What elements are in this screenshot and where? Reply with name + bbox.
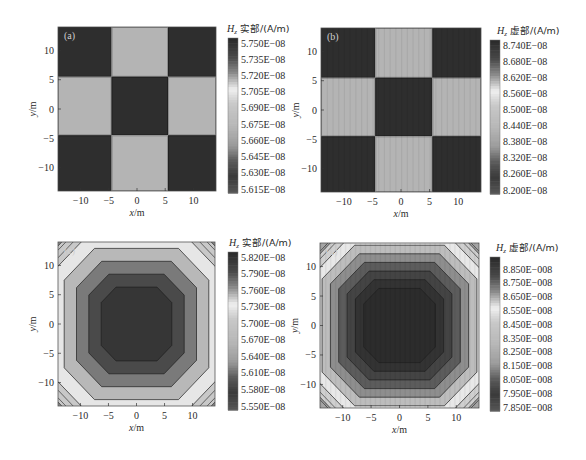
colorbar: 5.750E−085.735E−085.720E−085.705E−085.69… xyxy=(226,23,290,195)
heatmap-cell xyxy=(168,77,216,136)
colorbar-tick-label: 8.850E−008 xyxy=(503,264,552,275)
colorbar-tick-label: 8.050E−008 xyxy=(503,374,552,385)
colorbar-tick-label: 8.260E−08 xyxy=(503,168,547,179)
heatmap-cell xyxy=(58,77,112,136)
colorbar-tick-label: 5.700E−08 xyxy=(241,318,285,329)
colorbar-tick-label: 7.850E−008 xyxy=(503,402,552,413)
colorbar: 8.740E−088.680E−088.620E−088.560E−088.50… xyxy=(490,25,560,196)
heatmap-cell xyxy=(168,27,216,77)
y-axis-label: y/m xyxy=(289,318,300,334)
colorbar-tick-label: 5.640E−08 xyxy=(241,351,285,362)
colorbar-tick-label: 5.660E−08 xyxy=(241,135,285,146)
colorbar-tick-label: 8.380E−08 xyxy=(503,136,547,147)
y-tick-label: 5 xyxy=(49,74,54,85)
colorbar-tick-label: 5.670E−08 xyxy=(241,334,285,345)
colorbar-tick-label: 5.615E−08 xyxy=(241,184,285,195)
x-tick-label: 0 xyxy=(397,412,402,423)
x-tick-label: −5 xyxy=(367,196,378,207)
y-tick-label: 0 xyxy=(311,320,316,331)
panel-b: (b)−10−505101050−5−10x/my/m8.740E−088.68… xyxy=(290,25,560,219)
colorbar-title: Hz 实部/(A/m) xyxy=(226,23,290,36)
colorbar-tick-label: 8.750E−008 xyxy=(503,277,552,288)
y-tick-label: −10 xyxy=(300,379,316,390)
colorbar-tick-label: 8.620E−08 xyxy=(503,72,547,83)
x-tick-label: 0 xyxy=(134,410,139,421)
figure: (a)−10−505101050−5−10x/my/m5.750E−085.73… xyxy=(0,0,586,460)
colorbar-tick-label: 5.705E−08 xyxy=(241,86,285,97)
colorbar-tick-label: 5.645E−08 xyxy=(241,151,285,162)
y-tick-label: 10 xyxy=(44,260,54,271)
x-axis-label: x/m xyxy=(128,422,144,433)
colorbar-tick-label: 5.690E−08 xyxy=(241,102,285,113)
y-tick-label: 0 xyxy=(312,105,317,116)
x-tick-label: 5 xyxy=(427,196,432,207)
panel-label: (d) xyxy=(326,246,338,258)
y-tick-label: 0 xyxy=(49,319,54,330)
colorbar-tick-label: 5.760E−08 xyxy=(241,285,285,296)
colorbar-tick-label: 8.680E−08 xyxy=(503,56,547,67)
colorbar-tick-label: 5.720E−08 xyxy=(241,70,285,81)
x-tick-label: −10 xyxy=(335,412,351,423)
x-tick-label: 10 xyxy=(188,410,198,421)
panel-d: (d)−10−505101050−5−10x/my/m8.850E−0088.7… xyxy=(289,211,559,441)
y-tick-label: −5 xyxy=(306,134,317,145)
heatmap-cell xyxy=(58,135,112,191)
heatmap-cell xyxy=(432,136,481,192)
y-tick-label: −5 xyxy=(305,349,316,360)
colorbar-tick-label: 5.820E−08 xyxy=(241,252,285,263)
colorbar-tick-label: 8.200E−08 xyxy=(503,185,547,196)
y-tick-label: 10 xyxy=(307,46,317,57)
colorbar: 5.820E−085.790E−085.760E−085.730E−085.70… xyxy=(228,237,292,412)
y-axis-label: y/m xyxy=(290,102,301,118)
x-tick-label: 0 xyxy=(399,196,404,207)
colorbar-tick-label: 5.790E−08 xyxy=(241,268,285,279)
colorbar-tick-label: 8.350E−008 xyxy=(503,333,552,344)
x-tick-label: 10 xyxy=(453,196,463,207)
colorbar-tick-label: 5.630E−08 xyxy=(241,167,285,178)
y-axis-label: y/m xyxy=(27,316,38,332)
colorbar-tick-label: 5.675E−08 xyxy=(241,119,285,130)
heatmap-cell xyxy=(112,27,168,77)
colorbar-tick-label: 5.735E−08 xyxy=(241,54,285,65)
colorbar-tick-label: 8.150E−008 xyxy=(503,360,552,371)
y-tick-label: −10 xyxy=(38,377,54,388)
x-tick-label: 5 xyxy=(425,412,430,423)
colorbar-tick-label: 8.440E−08 xyxy=(503,120,547,131)
colorbar-tick-label: 5.610E−08 xyxy=(241,367,285,378)
colorbar-tick-label: 5.730E−08 xyxy=(241,301,285,312)
x-tick-label: −5 xyxy=(103,195,114,206)
panel-label: (b) xyxy=(327,31,339,43)
colorbar-tick-label: 8.650E−008 xyxy=(503,291,552,302)
x-axis-label: x/m xyxy=(391,424,407,435)
y-tick-label: −5 xyxy=(43,348,54,359)
heatmap-area xyxy=(321,28,481,192)
panel-a: (a)−10−505101050−5−10x/my/m5.750E−085.73… xyxy=(27,23,290,218)
y-tick-label: 5 xyxy=(49,289,54,300)
y-tick-label: −5 xyxy=(43,133,54,144)
colorbar-tick-label: 5.750E−08 xyxy=(241,38,285,49)
colorbar-tick-label: 8.450E−008 xyxy=(503,319,552,330)
heatmap-area xyxy=(58,27,216,191)
y-tick-label: 10 xyxy=(44,45,54,56)
panel-c: (c)−10−505101050−5−10x/my/m5.820E−085.79… xyxy=(27,210,292,438)
colorbar: 8.850E−0088.750E−0088.650E−0088.550E−008… xyxy=(490,242,559,413)
heatmap-cell xyxy=(168,135,216,191)
colorbar-title: Hz 虚部/(A/m) xyxy=(496,25,560,38)
colorbar-tick-label: 8.500E−08 xyxy=(503,104,547,115)
y-tick-label: −10 xyxy=(38,162,54,173)
heatmap-cell xyxy=(112,77,168,136)
heatmap-cell xyxy=(432,78,481,137)
x-tick-label: −10 xyxy=(73,410,89,421)
colorbar-tick-label: 8.320E−08 xyxy=(503,152,547,163)
colorbar-tick-label: 8.550E−008 xyxy=(503,305,552,316)
colorbar-tick-label: 8.740E−08 xyxy=(503,40,547,51)
y-tick-label: 0 xyxy=(49,104,54,115)
x-tick-label: −5 xyxy=(103,410,114,421)
y-tick-label: −10 xyxy=(301,163,317,174)
x-tick-label: 10 xyxy=(451,412,461,423)
y-tick-label: 5 xyxy=(312,75,317,86)
x-tick-label: −10 xyxy=(73,195,89,206)
x-axis-label: x/m xyxy=(128,207,144,218)
x-tick-label: 10 xyxy=(188,195,198,206)
x-tick-label: −5 xyxy=(366,412,377,423)
